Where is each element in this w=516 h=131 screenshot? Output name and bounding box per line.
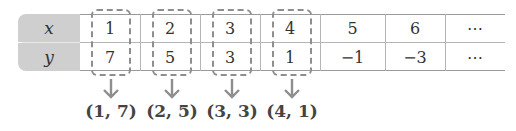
x-cell: ⋯ — [445, 14, 505, 42]
down-arrow-icon — [222, 79, 242, 99]
down-arrow-icon — [282, 79, 302, 99]
dashed-highlight-box — [272, 9, 312, 76]
down-arrow-icon — [101, 79, 121, 99]
x-cell: 6 — [385, 14, 445, 42]
header-x: x — [18, 14, 80, 42]
y-cell: −3 — [385, 43, 445, 71]
x-cell: 5 — [320, 14, 385, 42]
ordered-pair: (3, 3) — [202, 100, 262, 122]
y-cell: ⋯ — [445, 43, 505, 71]
ordered-pair: (2, 5) — [142, 100, 202, 122]
y-cell: −1 — [320, 43, 385, 71]
ordered-pair: (1, 7) — [81, 100, 141, 122]
header-divider — [22, 42, 80, 43]
dashed-highlight-box — [212, 9, 252, 76]
down-arrow-icon — [162, 79, 182, 99]
dashed-highlight-box — [91, 9, 131, 76]
dashed-highlight-box — [152, 9, 192, 76]
header-y: y — [18, 43, 80, 71]
ordered-pair: (4, 1) — [262, 100, 322, 122]
